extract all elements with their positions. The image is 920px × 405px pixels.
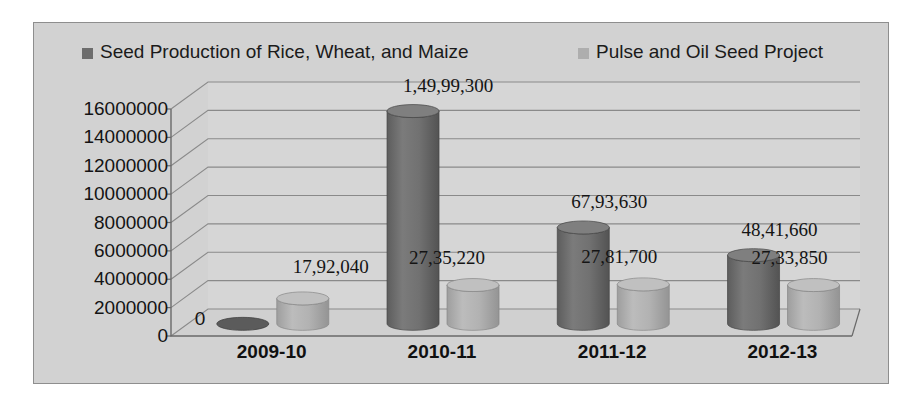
- chart-frame: Seed Production of Rice, Wheat, and Maiz…: [33, 22, 889, 384]
- data-value-label: 0: [195, 308, 206, 330]
- data-value-label: 27,35,220: [409, 247, 485, 269]
- data-value-label: 1,49,99,300: [403, 75, 493, 97]
- data-value-label: 27,81,700: [581, 246, 657, 268]
- data-value-label: 17,92,040: [293, 256, 369, 278]
- chart-screenshot: Seed Production of Rice, Wheat, and Maiz…: [0, 0, 920, 405]
- data-value-labels: 01,49,99,30067,93,63048,41,66017,92,0402…: [34, 23, 890, 385]
- data-value-label: 27,33,850: [752, 247, 828, 269]
- data-value-label: 67,93,630: [571, 191, 647, 213]
- data-value-label: 48,41,660: [742, 219, 818, 241]
